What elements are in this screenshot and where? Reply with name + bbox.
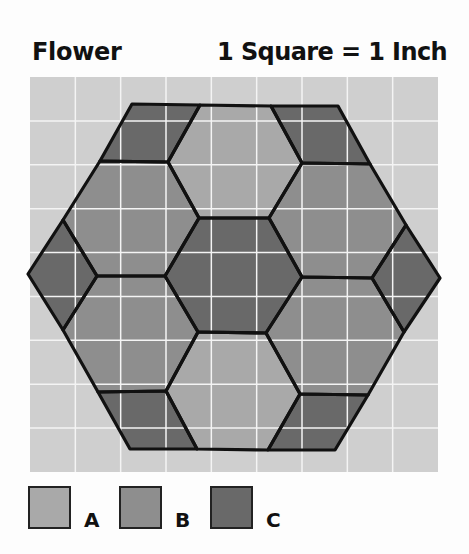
legend-swatch-c [210, 486, 253, 529]
legend-label-a: A [84, 508, 99, 532]
flower-quilt-diagram [0, 0, 469, 554]
legend-label-c: C [266, 508, 281, 532]
legend-label-b: B [175, 508, 190, 532]
legend-swatch-b [119, 486, 162, 529]
legend-swatch-a [28, 486, 71, 529]
